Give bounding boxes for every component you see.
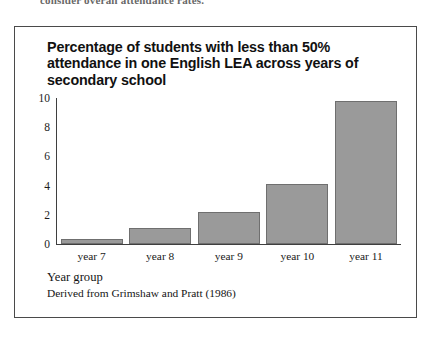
x-axis-tick-label: year 8 (146, 250, 174, 262)
chart-title: Percentage of students with less than 50… (47, 39, 392, 88)
figure-frame: Percentage of students with less than 50… (14, 26, 417, 318)
bar[interactable] (61, 239, 123, 244)
caption-block: Year group Derived from Grimshaw and Pra… (47, 270, 387, 300)
clipped-body-text: consider overall attendance rates. (40, 0, 340, 6)
y-axis-tick-label: 0 (44, 238, 50, 250)
x-axis-title: Year group (47, 270, 387, 285)
y-axis-tick-label: 8 (44, 121, 50, 133)
x-axis-tick-label: year 10 (280, 250, 314, 262)
y-axis-tick-label: 6 (44, 150, 50, 162)
x-axis-line (56, 244, 401, 245)
x-axis-tick-label: year 7 (78, 250, 106, 262)
bar-slot (198, 98, 260, 244)
plot-area: 0246810 year 7year 8year 9year 10year 11 (56, 98, 401, 245)
bar[interactable] (335, 101, 397, 244)
bar-slot (335, 98, 397, 244)
bar-slot (129, 98, 191, 244)
y-axis-tick-label: 10 (39, 92, 51, 104)
x-axis-tick-label: year 11 (349, 250, 382, 262)
y-axis-tick-label: 4 (44, 180, 50, 192)
bar-slot (61, 98, 123, 244)
x-axis-tick-label: year 9 (215, 250, 243, 262)
bar[interactable] (198, 212, 260, 244)
source-note: Derived from Grimshaw and Pratt (1986) (47, 286, 387, 300)
bar-slot (266, 98, 328, 244)
bar[interactable] (129, 228, 191, 244)
bar[interactable] (266, 184, 328, 244)
y-axis-tick-label: 2 (44, 209, 50, 221)
bar-series (57, 98, 400, 244)
